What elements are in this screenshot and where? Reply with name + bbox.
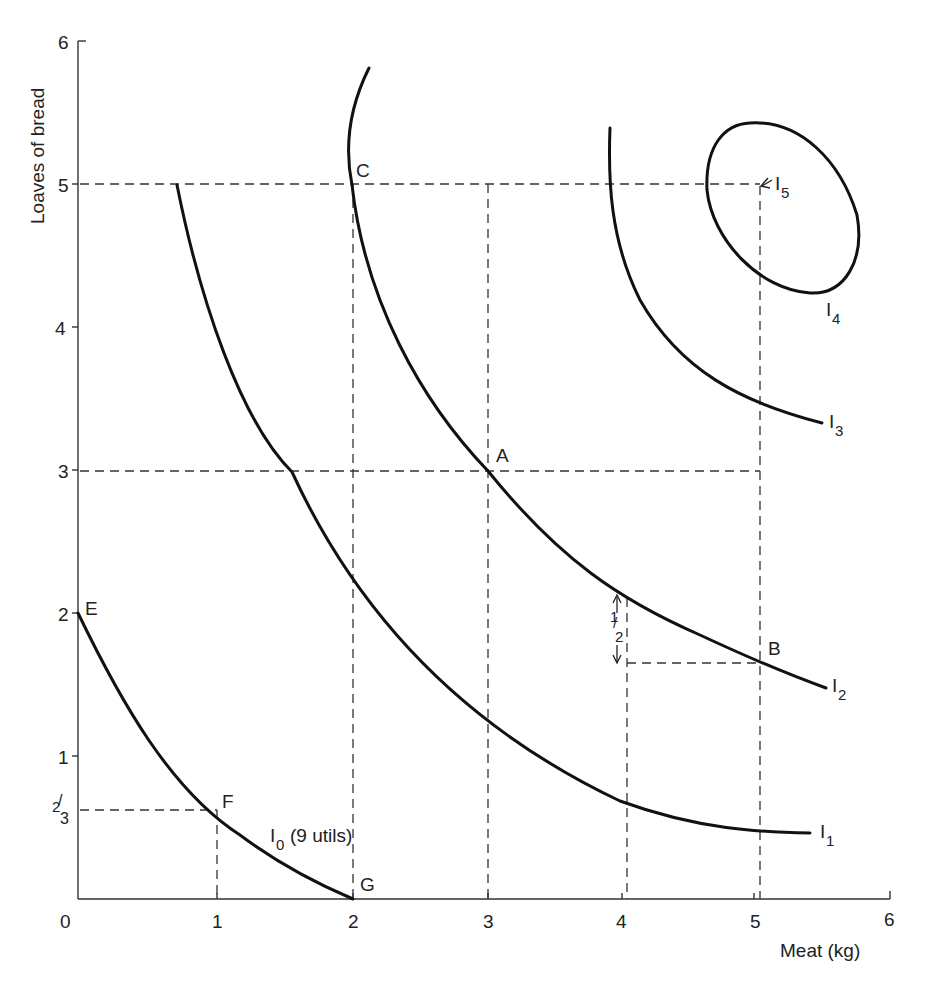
point-label-B: B <box>768 638 781 659</box>
svg-text:1: 1 <box>826 832 834 849</box>
svg-text:I: I <box>775 173 780 194</box>
indifference-curve-chart: 6 5 4 3 2 1 2 / 3 0 1 2 3 4 5 6 Meat (kg… <box>0 0 933 997</box>
curve-I4-loop <box>707 123 859 293</box>
svg-text:5: 5 <box>781 184 789 201</box>
curve-label-I0: I 0 (9 utils) <box>270 825 352 853</box>
curve-label-I4: I 4 <box>826 299 840 327</box>
curve-label-I2: I 2 <box>832 675 846 703</box>
svg-text:4: 4 <box>832 310 840 327</box>
point-label-A: A <box>496 445 509 466</box>
svg-text:I: I <box>832 675 837 696</box>
svg-text:I: I <box>270 825 275 846</box>
y-tick-4: 4 <box>55 318 66 339</box>
point-label-F: F <box>222 791 234 812</box>
curve-label-I1: I 1 <box>820 821 834 849</box>
x-tick-6: 6 <box>884 909 895 930</box>
svg-text:0: 0 <box>276 836 284 853</box>
svg-text:(9 utils): (9 utils) <box>290 825 352 846</box>
point-label-C: C <box>356 160 370 181</box>
y-axis-label: Loaves of bread <box>27 88 48 224</box>
curve-I2 <box>349 68 826 688</box>
svg-text:/: / <box>58 792 63 809</box>
axes <box>72 41 890 899</box>
curve-I0 <box>78 613 353 899</box>
svg-text:2: 2 <box>838 686 846 703</box>
svg-text:I: I <box>829 411 834 432</box>
y-tick-3: 3 <box>58 461 69 482</box>
x-tick-0: 0 <box>60 911 71 932</box>
y-tick-two-thirds-den: 3 <box>60 810 69 827</box>
curve-label-I3: I 3 <box>829 411 843 439</box>
x-axis-label: Meat (kg) <box>780 940 860 961</box>
y-tick-6: 6 <box>58 32 69 53</box>
half-annotation: 1 / 2 <box>610 595 623 663</box>
guide-lines <box>80 184 760 899</box>
point-label-G: G <box>360 874 375 895</box>
svg-text:I: I <box>820 821 825 842</box>
tick-labels: 6 5 4 3 2 1 2 / 3 0 1 2 3 4 5 6 <box>52 32 895 932</box>
x-tick-2: 2 <box>348 911 359 932</box>
svg-text:2: 2 <box>615 628 623 645</box>
y-tick-1: 1 <box>58 747 69 768</box>
curve-I3 <box>609 128 822 423</box>
y-tick-2: 2 <box>58 604 69 625</box>
curve-I1 <box>177 185 810 833</box>
x-tick-4: 4 <box>616 911 627 932</box>
curve-label-I5: I 5 <box>775 173 789 201</box>
x-tick-5: 5 <box>750 911 761 932</box>
x-tick-1: 1 <box>212 911 223 932</box>
svg-text:3: 3 <box>835 422 843 439</box>
y-tick-5: 5 <box>58 175 69 196</box>
svg-text:I: I <box>826 299 831 320</box>
point-label-E: E <box>85 598 98 619</box>
x-tick-3: 3 <box>483 911 494 932</box>
